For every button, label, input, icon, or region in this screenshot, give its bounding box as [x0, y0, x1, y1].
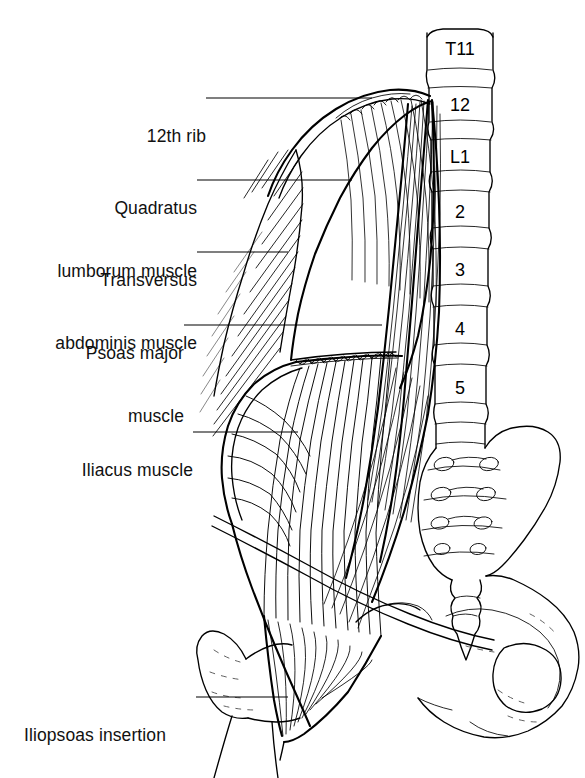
- coccyx: [451, 580, 482, 660]
- iliacus-muscle: [222, 353, 402, 727]
- sacral-foramen: [430, 486, 452, 503]
- psoas-major-muscle: [324, 100, 441, 628]
- label-iliopsoas-insertion: Iliopsoas insertion: [24, 683, 204, 778]
- vertebra-label-l5: 5: [455, 378, 465, 398]
- label-quadratus-lumborum-line1: Quadratus: [6, 198, 197, 219]
- vertebra-label-l4: 4: [455, 319, 465, 339]
- sacral-foramen: [469, 542, 486, 555]
- label-iliopsoas-insertion-line1: Iliopsoas insertion: [24, 725, 204, 746]
- sacral-foramen: [473, 516, 493, 531]
- lumbar-vertebral-column: T11 12 L1 2 3 4 5: [426, 29, 494, 448]
- obturator-foramen: [493, 643, 561, 712]
- vertebra-label-t11: T11: [445, 39, 475, 59]
- anatomical-figure: T11 12 L1 2 3 4 5: [0, 0, 585, 778]
- label-iliacus-line1: Iliacus muscle: [13, 460, 193, 481]
- transversus-abdominis-aponeurosis: [200, 150, 303, 436]
- iliopsoas-tendon-insertion: [264, 616, 381, 760]
- label-psoas-major-line1: Psoas major: [0, 343, 184, 364]
- vertebra-label-l3: 3: [455, 260, 465, 280]
- sacral-foramen: [433, 456, 455, 473]
- femur-greater-trochanter: [197, 631, 300, 778]
- inguinal-ligament: [212, 516, 494, 652]
- label-transversus-abdominis-line1: Transversus: [6, 270, 197, 291]
- label-iliacus: Iliacus muscle: [13, 418, 193, 523]
- vertebra-label-l2: 2: [455, 202, 465, 222]
- vertebra-label-t12: 12: [450, 95, 470, 115]
- label-twelfth-rib-line1: 12th rib: [16, 126, 206, 147]
- vertebra-label-l1: L1: [450, 147, 470, 167]
